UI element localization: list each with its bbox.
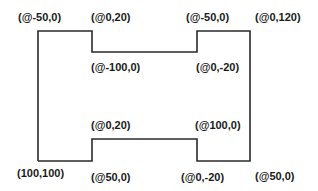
label-bottom-middle: (@100,0): [195, 120, 241, 131]
label-bottom-right: (@50,0): [255, 171, 294, 182]
label-bottom-left-step: (@0,20): [91, 120, 130, 131]
label-top-right-step: (@0,-20): [196, 62, 239, 73]
label-top-left-step: (@0,20): [91, 12, 130, 23]
label-bottom-right-step: (@0,-20): [181, 172, 224, 183]
diagram-canvas: (100,100)(@-50,0)(@0,20)(@-100,0)(@0,-20…: [0, 0, 318, 191]
shape-outline: [0, 0, 318, 191]
label-right-side: (@0,120): [255, 12, 301, 23]
label-up-left: (@-50,0): [18, 12, 61, 23]
label-start: (100,100): [17, 168, 64, 179]
label-top-middle: (@-100,0): [91, 62, 140, 73]
label-top-right: (@-50,0): [186, 12, 229, 23]
label-bottom-left: (@50,0): [91, 172, 130, 183]
